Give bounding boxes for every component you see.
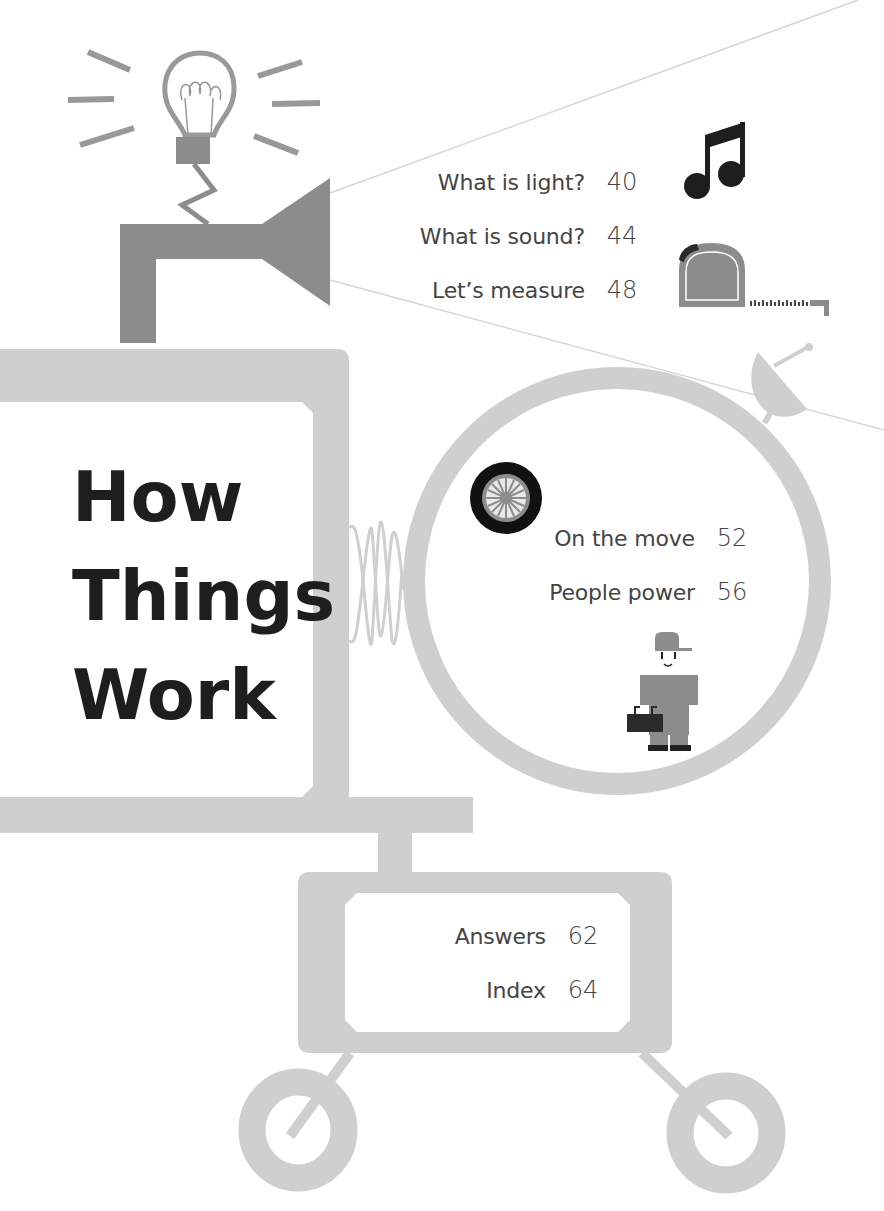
cart-box <box>298 872 672 1053</box>
projection-line-top <box>330 0 858 193</box>
toc-label: Let’s measure <box>432 278 585 303</box>
toc-page: 52 <box>717 524 747 552</box>
satellite-dish-icon <box>751 343 813 425</box>
toc-label: Index <box>486 978 546 1003</box>
title-line: Work <box>72 646 335 745</box>
toc-entry-index[interactable]: Index 64 <box>486 976 598 1004</box>
toc-label: Answers <box>455 924 546 949</box>
worker-icon <box>627 632 698 751</box>
wheel-icon <box>470 462 542 534</box>
toc-page: 62 <box>568 922 598 950</box>
book-title: How Things Work <box>72 448 335 745</box>
toc-entry-people-power[interactable]: People power 56 <box>549 578 747 606</box>
loudspeaker-icon <box>120 178 330 343</box>
music-note-icon <box>684 122 745 199</box>
toc-label: People power <box>549 580 695 605</box>
toc-page: 56 <box>717 578 747 606</box>
toc-entry-what-is-light[interactable]: What is light? 40 <box>438 168 637 196</box>
tape-measure-icon <box>679 243 829 316</box>
light-bulb-icon <box>68 52 320 224</box>
title-line: Things <box>72 547 335 646</box>
toc-page: 40 <box>607 168 637 196</box>
spring-icon <box>349 522 404 645</box>
toc-entry-answers[interactable]: Answers 62 <box>455 922 598 950</box>
toc-page: 64 <box>568 976 598 1004</box>
toc-label: What is light? <box>438 170 585 195</box>
cart-stem <box>378 833 412 875</box>
toc-label: On the move <box>554 526 695 551</box>
title-line: How <box>72 448 335 547</box>
cart-wheel-right-icon <box>642 1053 772 1180</box>
toc-page: 44 <box>607 222 637 250</box>
cart-wheel-left-icon <box>252 1053 350 1178</box>
toc-entry-on-the-move[interactable]: On the move 52 <box>554 524 747 552</box>
toc-page: 48 <box>607 276 637 304</box>
toc-entry-lets-measure[interactable]: Let’s measure 48 <box>432 276 637 304</box>
toc-label: What is sound? <box>420 224 585 249</box>
toc-entry-what-is-sound[interactable]: What is sound? 44 <box>420 222 637 250</box>
